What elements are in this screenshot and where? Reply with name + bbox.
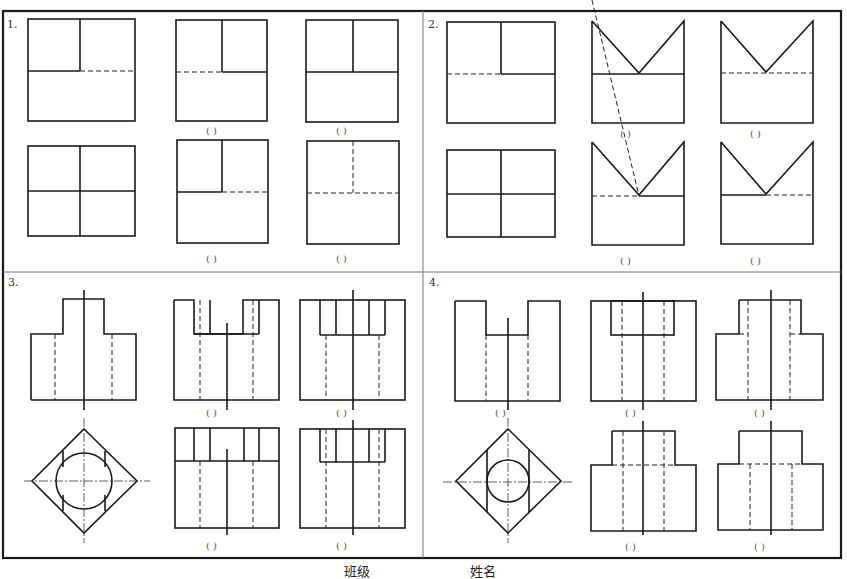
- answer-slot[interactable]: ( ): [206, 125, 217, 136]
- answer-slot[interactable]: ( ): [206, 407, 217, 418]
- answer-slot[interactable]: ( ): [336, 253, 347, 264]
- answer-slot[interactable]: ( ): [336, 125, 347, 136]
- outer-frame: [3, 11, 841, 558]
- answer-slot[interactable]: ( ): [336, 540, 347, 551]
- answer-slot[interactable]: ( ): [754, 407, 765, 418]
- worksheet-drawing: 1. ( ) ( ) ( ) ( ) 2.: [0, 0, 847, 579]
- answer-slot[interactable]: ( ): [206, 253, 217, 264]
- answer-slot[interactable]: ( ): [620, 128, 631, 139]
- answer-slot[interactable]: ( ): [750, 255, 761, 266]
- answer-slot[interactable]: ( ): [336, 407, 347, 418]
- problem-number: 4.: [429, 276, 440, 289]
- class-label: 班级: [344, 564, 370, 579]
- answer-slot[interactable]: ( ): [625, 541, 636, 552]
- answer-slot[interactable]: ( ): [625, 407, 636, 418]
- name-label: 姓名: [470, 564, 496, 579]
- answer-slot[interactable]: ( ): [620, 255, 631, 266]
- problem-1: 1. ( ) ( ) ( ) ( ): [7, 18, 399, 264]
- problem-4: 4. ( ) ( ) ( ) ( ) ( ): [429, 276, 823, 552]
- answer-slot[interactable]: ( ): [206, 540, 217, 551]
- problem-number: 3.: [8, 276, 19, 289]
- answer-slot[interactable]: ( ): [750, 128, 761, 139]
- problem-3: 3. ( ): [8, 276, 405, 551]
- answer-slot[interactable]: ( ): [495, 407, 506, 418]
- problem-2: 2. ( ) ( ) ( ) ( ): [428, 0, 813, 266]
- problem-number: 1.: [7, 18, 18, 31]
- answer-slot[interactable]: ( ): [754, 541, 765, 552]
- problem-number: 2.: [428, 18, 439, 31]
